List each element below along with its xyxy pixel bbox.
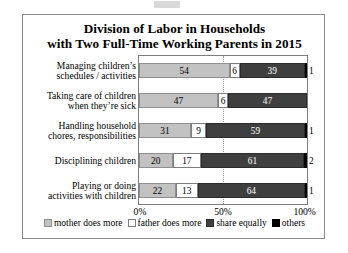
category-label-line: Taking care of children	[47, 90, 136, 101]
bar-segment-mother-does-more[interactable]: 31	[139, 123, 191, 138]
legend-swatch-icon	[272, 219, 280, 227]
bar-segment-mother-does-more[interactable]: 47	[139, 93, 218, 108]
category-label: Playing or doing activities with childre…	[23, 181, 136, 202]
bar-row: 22 13 64 1	[139, 176, 307, 206]
bar-segment-father-does-more[interactable]: 17	[173, 153, 202, 168]
legend-label: share equally	[216, 218, 266, 228]
category-axis-labels: Managing children’s schedules / activiti…	[23, 55, 138, 205]
bar-segment-share-equally[interactable]: 61	[201, 153, 303, 168]
bar-value-label: 13	[182, 186, 191, 196]
legend-swatch-icon	[44, 219, 52, 227]
category-label: Disciplining children	[23, 156, 136, 166]
bar-segment-others[interactable]: 1	[305, 123, 307, 138]
bar-value-label: 17	[182, 156, 191, 166]
bar-segment-others[interactable]: 2	[304, 153, 307, 168]
bar-value-label: 54	[180, 66, 189, 76]
bar-segment-father-does-more[interactable]: 6	[218, 93, 228, 108]
bar-row: 54 6 39 1	[139, 56, 307, 86]
axis-tick-label: 100%	[293, 206, 315, 217]
bar-value-label: 31	[160, 126, 169, 136]
bar-value-label: 1	[309, 66, 314, 76]
stacked-bar: 22 13 64 1	[139, 183, 307, 198]
image-top-artifact	[154, 1, 180, 8]
bar-value-label: 39	[268, 66, 277, 76]
legend-label: others	[282, 218, 305, 228]
bar-row: 47 6 47	[139, 86, 307, 116]
bar-value-label: 2	[309, 156, 314, 166]
bar-value-label: 6	[232, 66, 237, 76]
category-label-line: when they’re sick	[68, 100, 136, 111]
bar-row: 20 17 61 2	[139, 146, 307, 176]
bar-segment-father-does-more[interactable]: 9	[191, 123, 206, 138]
chart-title: Division of Labor in Households with Two…	[23, 21, 326, 51]
bar-value-label: 1	[309, 126, 314, 136]
category-label: Managing children’s schedules / activiti…	[23, 61, 136, 82]
bar-value-label: 9	[196, 126, 201, 136]
bar-segment-father-does-more[interactable]: 13	[176, 183, 198, 198]
bar-segment-others[interactable]: 1	[305, 183, 307, 198]
axis-tick-label: 50%	[214, 206, 232, 217]
legend-swatch-icon	[206, 219, 214, 227]
chart-legend: mother does more father does more share …	[23, 218, 326, 228]
category-label: Taking care of children when they’re sic…	[23, 91, 136, 112]
stacked-bar: 20 17 61 2	[139, 153, 307, 168]
category-label-line: Handling household	[58, 120, 136, 131]
bar-value-label: 20	[151, 156, 160, 166]
legend-item-father-does-more[interactable]: father does more	[128, 218, 202, 228]
bar-value-label: 59	[251, 126, 260, 136]
bar-value-label: 1	[309, 186, 314, 196]
category-label-line: Disciplining children	[55, 155, 136, 166]
stacked-bar: 31 9 59 1	[139, 123, 307, 138]
category-label-line: Managing children’s	[57, 60, 136, 71]
category-label-line: chores, responsibilities	[48, 130, 136, 141]
category-label: Handling household chores, responsibilit…	[23, 121, 136, 142]
category-label-line: schedules / activities	[57, 70, 136, 81]
legend-swatch-icon	[128, 219, 136, 227]
legend-label: mother does more	[54, 218, 123, 228]
chart-frame: Division of Labor in Households with Two…	[22, 14, 325, 239]
category-label-line: activities with children	[48, 190, 136, 201]
bar-segment-others[interactable]: 1	[305, 63, 307, 78]
legend-item-others[interactable]: others	[272, 218, 305, 228]
bar-segment-mother-does-more[interactable]: 22	[139, 183, 176, 198]
stacked-bar: 47 6 47	[139, 93, 307, 108]
legend-item-share-equally[interactable]: share equally	[206, 218, 266, 228]
bar-value-label: 47	[263, 96, 272, 106]
chart-title-line-1: Division of Labor in Households	[23, 21, 326, 36]
bar-value-label: 47	[174, 96, 183, 106]
category-label-line: Playing or doing	[72, 180, 136, 191]
bar-segment-share-equally[interactable]: 59	[206, 123, 305, 138]
bar-segment-share-equally[interactable]: 47	[228, 93, 307, 108]
bar-segment-share-equally[interactable]: 39	[240, 63, 305, 78]
axis-tick-label: 0%	[134, 206, 147, 217]
bar-segment-father-does-more[interactable]: 6	[230, 63, 240, 78]
plot-area: 54 6 39 1 47	[138, 55, 308, 205]
bar-value-label: 61	[248, 156, 257, 166]
bar-value-label: 64	[247, 186, 256, 196]
legend-item-mother-does-more[interactable]: mother does more	[44, 218, 123, 228]
stacked-bar: 54 6 39 1	[139, 63, 307, 78]
bar-segment-share-equally[interactable]: 64	[198, 183, 305, 198]
bar-row: 31 9 59 1	[139, 116, 307, 146]
bar-value-label: 22	[153, 186, 162, 196]
bar-segment-mother-does-more[interactable]: 20	[139, 153, 173, 168]
legend-label: father does more	[138, 218, 202, 228]
bar-segment-mother-does-more[interactable]: 54	[139, 63, 230, 78]
bar-value-label: 6	[221, 96, 226, 106]
chart-title-line-2: with Two Full-Time Working Parents in 20…	[23, 36, 326, 51]
plot-wrapper: Managing children’s schedules / activiti…	[23, 55, 326, 215]
